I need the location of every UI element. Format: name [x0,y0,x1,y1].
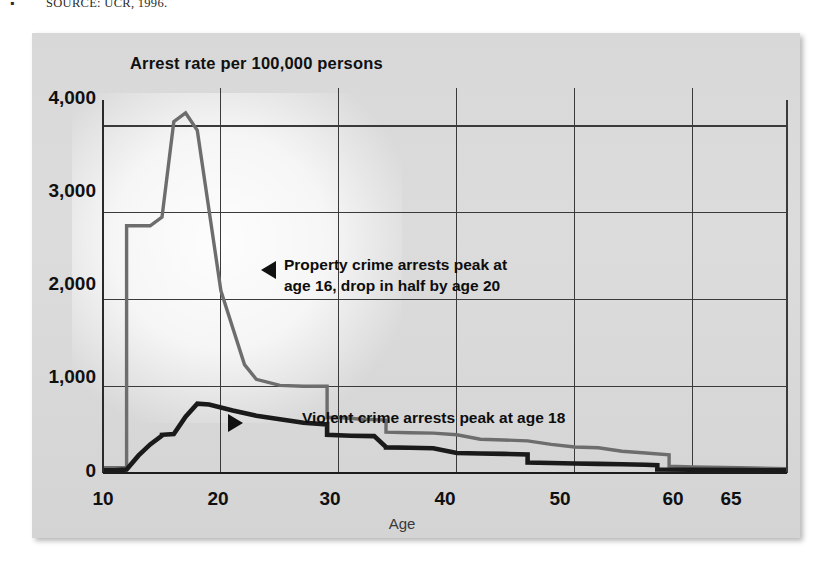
annotation-line: Property crime arrests peak at [284,255,507,276]
triangle-right-icon [228,414,243,432]
ytick-label: 0 [30,460,96,482]
source-caption: ▪ SOURCE: UCR, 1996. [0,0,400,14]
annotation-property-peak: Property crime arrests peak at age 16, d… [284,255,507,296]
xtick-label: 65 [706,488,756,510]
xtick-label: 50 [535,488,585,510]
annotation-violent-peak: Violent crime arrests peak at age 18 [302,408,565,429]
xtick-label: 60 [648,488,698,510]
source-text: SOURCE: UCR, 1996. [46,0,167,11]
ytick-label: 4,000 [30,87,96,109]
ytick-label: 2,000 [30,273,96,295]
xtick-label: 10 [78,488,128,510]
xtick-label: 20 [193,488,243,510]
bullet-icon: ▪ [10,0,14,11]
triangle-left-icon [261,261,276,279]
ytick-label: 1,000 [30,366,96,388]
xaxis-title: Age [357,515,447,532]
figure-panel: Arrest rate per 100,000 persons 4,000 3,… [32,33,800,538]
xtick-label: 40 [420,488,470,510]
annotation-line: Violent crime arrests peak at age 18 [302,408,565,429]
ytick-label: 3,000 [30,180,96,202]
xtick-label: 30 [305,488,355,510]
annotation-line: age 16, drop in half by age 20 [284,276,507,297]
